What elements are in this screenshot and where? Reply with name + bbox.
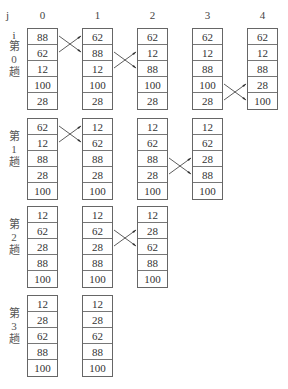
array-cell: 100 <box>83 271 112 287</box>
swap-arrow <box>224 84 246 100</box>
array-cell: 62 <box>83 135 112 151</box>
array-cell: 12 <box>138 119 167 135</box>
array-cell: 62 <box>138 135 167 151</box>
array-cell: 100 <box>248 93 277 109</box>
column-header-4: 4 <box>247 9 278 21</box>
pass-label-0: 第0趟 <box>6 40 22 79</box>
swap-arrow <box>224 84 246 100</box>
swap-arrow <box>169 158 191 174</box>
array-cell: 12 <box>83 61 112 77</box>
array-cell: 28 <box>248 77 277 93</box>
array-cell: 88 <box>28 29 57 45</box>
array-cell: 88 <box>28 344 57 360</box>
array-cell: 62 <box>83 328 112 344</box>
pass-label-char: 第 <box>6 307 22 320</box>
array-cell: 12 <box>28 296 57 312</box>
array-cell: 12 <box>83 119 112 135</box>
array-cell: 28 <box>83 239 112 255</box>
array-state-pass2-col1: 12622888100 <box>82 206 113 288</box>
column-header-1: 1 <box>82 9 113 21</box>
pass-label-char: 趟 <box>6 333 22 346</box>
array-state-pass0-col4: 62128828100 <box>247 28 278 110</box>
array-cell: 100 <box>138 271 167 287</box>
array-cell: 12 <box>193 45 222 61</box>
array-cell: 28 <box>83 93 112 109</box>
array-cell: 88 <box>28 255 57 271</box>
pass-label-char: 1 <box>6 143 22 156</box>
pass-label-char: 第 <box>6 40 22 53</box>
column-header-2: 2 <box>137 9 168 21</box>
swap-arrow <box>114 52 136 68</box>
array-cell: 12 <box>193 119 222 135</box>
array-state-pass1-col3: 12622888100 <box>192 118 223 200</box>
array-cell: 100 <box>28 271 57 287</box>
array-cell: 28 <box>193 93 222 109</box>
array-cell: 88 <box>193 167 222 183</box>
pass-label-char: 2 <box>6 231 22 244</box>
swap-arrow <box>114 52 136 68</box>
array-state-pass0-col1: 62881210028 <box>82 28 113 110</box>
array-cell: 28 <box>28 239 57 255</box>
pass-label-1: 第1趟 <box>6 130 22 169</box>
array-cell: 88 <box>248 61 277 77</box>
array-cell: 88 <box>138 61 167 77</box>
pass-label-char: 趟 <box>6 244 22 257</box>
array-cell: 88 <box>83 344 112 360</box>
array-cell: 28 <box>138 223 167 239</box>
array-cell: 28 <box>193 151 222 167</box>
array-cell: 88 <box>138 255 167 271</box>
swap-arrow <box>59 36 81 52</box>
swap-arrow <box>169 158 191 174</box>
pass-label-char: 第 <box>6 218 22 231</box>
array-cell: 100 <box>193 77 222 93</box>
array-cell: 100 <box>28 183 57 199</box>
column-header-0: 0 <box>27 9 58 21</box>
array-cell: 12 <box>138 45 167 61</box>
array-cell: 62 <box>83 29 112 45</box>
array-cell: 100 <box>83 360 112 376</box>
pass-label-char: 0 <box>6 53 22 66</box>
array-cell: 62 <box>28 223 57 239</box>
array-cell: 100 <box>138 77 167 93</box>
array-cell: 12 <box>248 45 277 61</box>
array-cell: 62 <box>248 29 277 45</box>
array-cell: 62 <box>193 135 222 151</box>
array-state-pass3-col0: 12286288100 <box>27 295 58 377</box>
pass-label-char: 趟 <box>6 66 22 79</box>
array-cell: 12 <box>83 296 112 312</box>
pass-label-char: 第 <box>6 130 22 143</box>
array-cell: 88 <box>83 151 112 167</box>
array-cell: 28 <box>138 167 167 183</box>
array-cell: 12 <box>138 207 167 223</box>
array-state-pass1-col2: 12628828100 <box>137 118 168 200</box>
pass-label-char: 趟 <box>6 156 22 169</box>
array-state-pass1-col1: 12628828100 <box>82 118 113 200</box>
array-cell: 100 <box>83 183 112 199</box>
array-cell: 28 <box>83 167 112 183</box>
array-state-pass0-col2: 62128810028 <box>137 28 168 110</box>
swap-arrow <box>59 36 81 52</box>
column-header-3: 3 <box>192 9 223 21</box>
pass-label-char: 3 <box>6 320 22 333</box>
array-cell: 28 <box>83 312 112 328</box>
array-cell: 28 <box>28 312 57 328</box>
array-cell: 88 <box>193 61 222 77</box>
array-cell: 12 <box>83 207 112 223</box>
array-cell: 62 <box>138 239 167 255</box>
swap-arrow <box>114 230 136 246</box>
array-cell: 88 <box>28 151 57 167</box>
array-state-pass1-col0: 62128828100 <box>27 118 58 200</box>
pass-label-3: 第3趟 <box>6 307 22 346</box>
array-state-pass0-col0: 88621210028 <box>27 28 58 110</box>
pass-label-2: 第2趟 <box>6 218 22 257</box>
array-cell: 28 <box>28 93 57 109</box>
array-cell: 62 <box>28 45 57 61</box>
array-cell: 100 <box>193 183 222 199</box>
array-cell: 88 <box>83 255 112 271</box>
array-cell: 62 <box>28 119 57 135</box>
swap-arrow <box>59 126 81 142</box>
array-cell: 62 <box>138 29 167 45</box>
array-cell: 62 <box>83 223 112 239</box>
array-cell: 88 <box>83 45 112 61</box>
array-cell: 28 <box>28 167 57 183</box>
